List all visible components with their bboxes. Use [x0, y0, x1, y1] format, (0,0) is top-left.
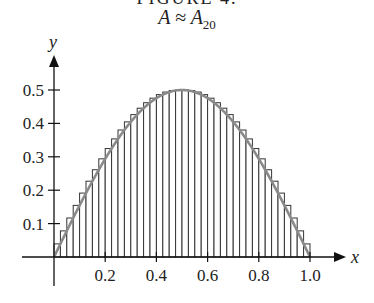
- y-axis-arrow-icon: [49, 55, 59, 67]
- x-tick-label: 0.6: [197, 266, 218, 285]
- x-tick-label: 1.0: [299, 266, 320, 285]
- riemann-rectangle: [156, 95, 162, 257]
- riemann-rectangle: [195, 92, 201, 257]
- riemann-rectangle: [240, 130, 246, 257]
- riemann-rectangle: [92, 170, 98, 257]
- riemann-sum-plot: x y 0.20.40.60.81.0 0.10.20.30.40.5: [0, 0, 374, 303]
- riemann-rectangle: [137, 108, 143, 257]
- y-tick-label: 0.2: [23, 181, 44, 200]
- riemann-rectangle: [259, 159, 265, 257]
- riemann-rectangle: [105, 149, 111, 257]
- y-tick-label: 0.1: [23, 215, 44, 234]
- x-axis-label: x: [350, 247, 359, 267]
- x-axis-arrow-icon: [334, 252, 346, 262]
- y-axis-label: y: [47, 32, 57, 52]
- x-tick-label: 0.4: [146, 266, 168, 285]
- riemann-rectangle: [163, 92, 169, 257]
- riemann-rectangle: [214, 103, 220, 257]
- y-tick-label: 0.5: [23, 81, 44, 100]
- y-tick-label: 0.4: [23, 114, 45, 133]
- riemann-rectangle: [144, 103, 150, 257]
- riemann-rectangle: [233, 122, 239, 257]
- riemann-rectangle: [176, 90, 182, 257]
- riemann-rectangle: [201, 95, 207, 257]
- riemann-rectangle: [220, 108, 226, 257]
- riemann-rectangle: [246, 139, 252, 257]
- y-tick-label: 0.3: [23, 148, 44, 167]
- riemann-rectangle: [265, 170, 271, 257]
- riemann-rectangle: [112, 139, 118, 257]
- riemann-rectangle: [208, 98, 214, 257]
- riemann-rectangle: [188, 91, 194, 257]
- riemann-rectangle: [131, 115, 137, 257]
- riemann-rectangle: [118, 130, 124, 257]
- riemann-rectangle: [169, 91, 175, 257]
- riemann-rectangle: [99, 159, 105, 257]
- riemann-rectangle: [227, 115, 233, 257]
- x-tick-label: 0.2: [95, 266, 116, 285]
- riemann-rectangle: [150, 98, 156, 257]
- riemann-rectangle: [252, 149, 258, 257]
- riemann-rectangle: [182, 90, 188, 257]
- riemann-rectangle: [124, 122, 130, 257]
- x-tick-label: 0.8: [248, 266, 269, 285]
- riemann-rectangles: [54, 90, 310, 257]
